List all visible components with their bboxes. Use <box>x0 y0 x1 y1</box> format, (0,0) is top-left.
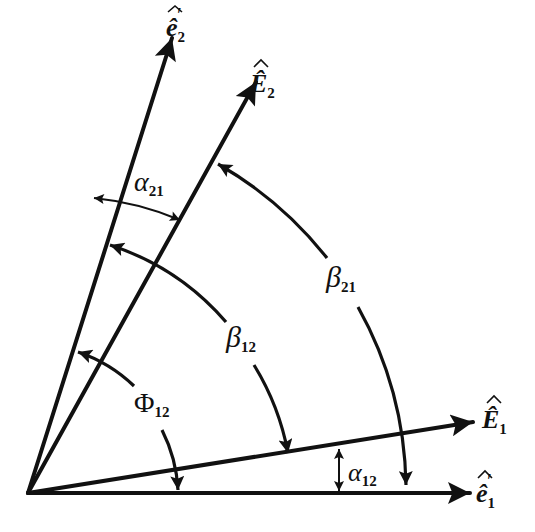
label-e1-prime: ê1′ <box>476 468 495 511</box>
arc-beta12 <box>110 245 288 453</box>
label-E2: Ê2 <box>249 69 275 101</box>
label-beta21: β21 <box>325 260 356 295</box>
label-e2-prime: ê2′ <box>166 2 185 45</box>
label-alpha12: α12 <box>348 458 377 489</box>
axis-e2-prime <box>28 38 172 493</box>
label-beta12: β12 <box>225 320 256 355</box>
arc-alpha21 <box>94 198 180 220</box>
vector-angle-diagram: ê2′ Ê2 Ê1 ê1′ α21 β21 β12 Φ12 α12 <box>0 0 535 532</box>
axis-E2 <box>28 82 256 493</box>
hat-marks <box>168 6 501 478</box>
label-E1: Ê1 <box>481 405 507 437</box>
label-phi12: Φ12 <box>134 387 169 420</box>
label-alpha21: α21 <box>134 166 164 199</box>
